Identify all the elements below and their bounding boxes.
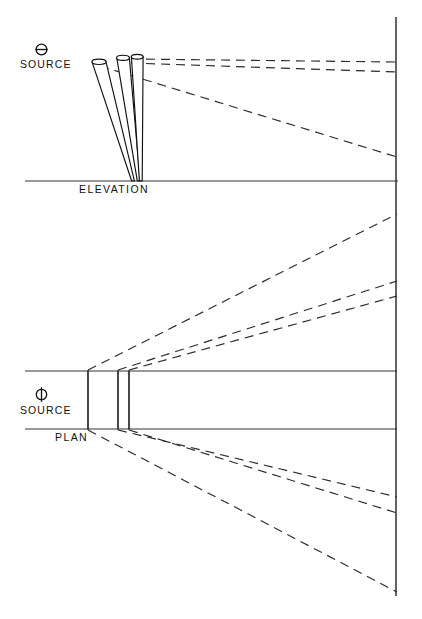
plan-view: SOURCE PLAN [20, 214, 397, 592]
elevation-beam-3-cap [131, 54, 143, 59]
elevation-source-label: SOURCE [20, 58, 72, 70]
plan-ray-upper-3 [129, 296, 397, 370]
plan-view-label: PLAN [55, 431, 88, 443]
technical-diagram-canvas: SOURCE ELEVATION SOURCE [0, 0, 422, 619]
elevation-ray-upper-2 [131, 63, 397, 72]
elevation-ray-lower-1 [100, 66, 397, 157]
plan-source-label: SOURCE [20, 404, 72, 416]
elevation-ray-upper-1 [131, 59, 397, 62]
plan-ray-upper-2 [118, 281, 397, 370]
plan-ray-lower-1 [88, 430, 397, 592]
phi-angle-icon [36, 387, 46, 402]
beam-geometry-figure: SOURCE ELEVATION SOURCE [0, 0, 422, 619]
elevation-view-label: ELEVATION [79, 183, 149, 195]
elevation-beam-1-cap [92, 59, 106, 64]
theta-angle-icon [35, 44, 47, 55]
elevation-view: SOURCE ELEVATION [20, 44, 398, 195]
plan-ray-upper-1 [88, 214, 397, 370]
elevation-beam-2-cap [117, 55, 130, 60]
